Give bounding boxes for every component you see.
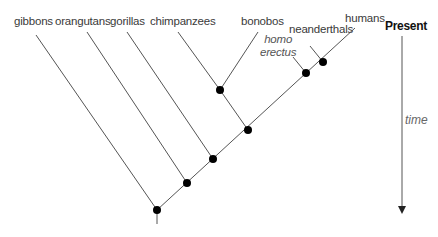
tree-graphic xyxy=(0,0,438,237)
branch-orangutans xyxy=(87,32,187,183)
node-orangutan-split xyxy=(183,179,191,187)
node-gorilla-split xyxy=(209,155,217,163)
branch-chimpanzees xyxy=(178,32,220,90)
node-neanderthal-human-split xyxy=(319,58,327,66)
node-chimp-bonobo-split xyxy=(216,86,224,94)
time-arrow-head-icon xyxy=(398,206,406,214)
branch-bonobos xyxy=(220,32,258,90)
node-root xyxy=(153,206,161,214)
branch-gorillas xyxy=(127,32,213,159)
branch-pan-clade xyxy=(220,90,248,130)
branch-gibbons xyxy=(36,35,157,210)
node-pan-split xyxy=(244,126,252,134)
node-homo-erectus-split xyxy=(302,69,310,77)
